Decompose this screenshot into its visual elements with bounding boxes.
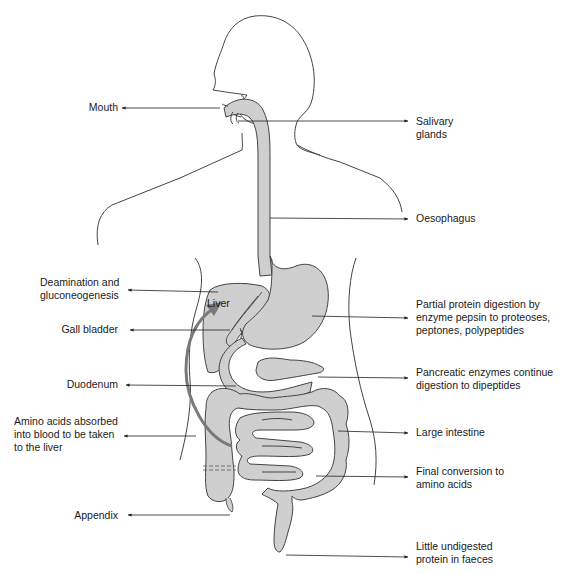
liver-label: Liver: [207, 297, 230, 309]
label-mouth: Mouth: [89, 101, 118, 114]
oesophagus: [224, 99, 272, 276]
label-large-intestine: Large intestine: [416, 426, 485, 439]
label-oesophagus: Oesophagus: [416, 212, 476, 225]
small-intestine: [236, 412, 315, 481]
label-gall-bladder: Gall bladder: [61, 323, 118, 336]
label-final-conversion: Final conversion to amino acids: [416, 465, 504, 491]
label-pancreatic-enzymes: Pancreatic enzymes continue digestion to…: [416, 366, 553, 392]
label-duodenum: Duodenum: [67, 378, 118, 391]
label-salivary-glands: Salivary glands: [416, 115, 453, 141]
appendix: [226, 498, 233, 512]
label-undigested-protein: Little undigested protein in faeces: [416, 540, 493, 566]
pancreas: [256, 358, 324, 381]
label-amino-acids-absorbed: Amino acids absorbed into blood to be ta…: [14, 415, 118, 454]
label-deamination: Deamination and gluconeogenesis: [40, 276, 119, 302]
label-appendix: Appendix: [74, 509, 118, 522]
label-stomach-digestion: Partial protein digestion by enzyme peps…: [416, 298, 550, 337]
